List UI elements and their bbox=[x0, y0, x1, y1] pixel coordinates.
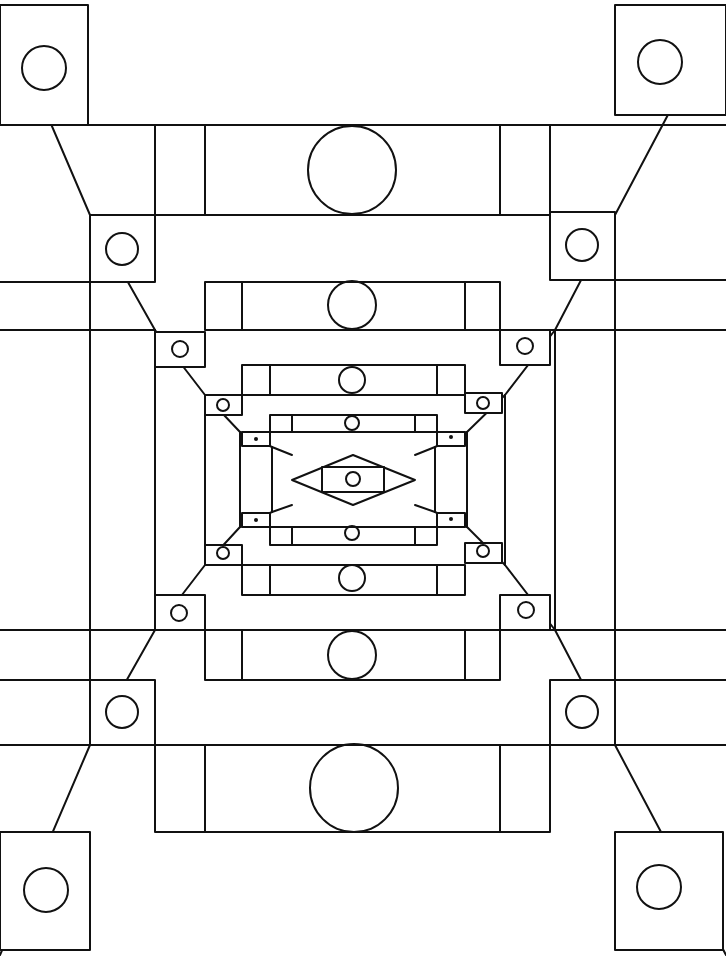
perspective-edge bbox=[415, 505, 435, 512]
tunnel-illustration bbox=[0, 0, 726, 968]
block-face bbox=[550, 680, 615, 745]
block-dot bbox=[449, 517, 453, 521]
perspective-edge bbox=[272, 505, 292, 512]
block-dot bbox=[449, 435, 453, 439]
block-dot bbox=[254, 518, 258, 522]
block-face bbox=[90, 215, 155, 282]
block-face bbox=[500, 330, 550, 365]
block-face bbox=[90, 680, 155, 745]
beam-circle bbox=[308, 126, 396, 214]
center-rect bbox=[322, 467, 384, 492]
block-face bbox=[550, 212, 615, 280]
beam-circle bbox=[345, 526, 359, 540]
beam-circle bbox=[328, 631, 376, 679]
perspective-edge bbox=[272, 447, 292, 455]
block-face bbox=[465, 393, 502, 413]
beam-circle bbox=[345, 416, 359, 430]
beam bbox=[242, 365, 465, 395]
beam bbox=[205, 282, 500, 330]
block-face bbox=[155, 332, 205, 367]
beam bbox=[205, 630, 500, 680]
beam-circle bbox=[339, 367, 365, 393]
block-face bbox=[0, 832, 90, 950]
beam bbox=[270, 527, 437, 545]
block-face bbox=[0, 5, 88, 125]
block-dot bbox=[254, 437, 258, 441]
beam-circle bbox=[310, 744, 398, 832]
block-face bbox=[615, 832, 723, 950]
block-face bbox=[500, 595, 550, 630]
perspective-edge bbox=[415, 447, 435, 455]
beam-circle bbox=[339, 565, 365, 591]
block-face bbox=[155, 595, 205, 630]
block-face bbox=[205, 395, 242, 415]
block-face bbox=[615, 5, 726, 115]
beam-circle bbox=[328, 281, 376, 329]
beam bbox=[155, 125, 550, 215]
beam bbox=[155, 745, 550, 832]
vanishing-center bbox=[292, 455, 415, 505]
